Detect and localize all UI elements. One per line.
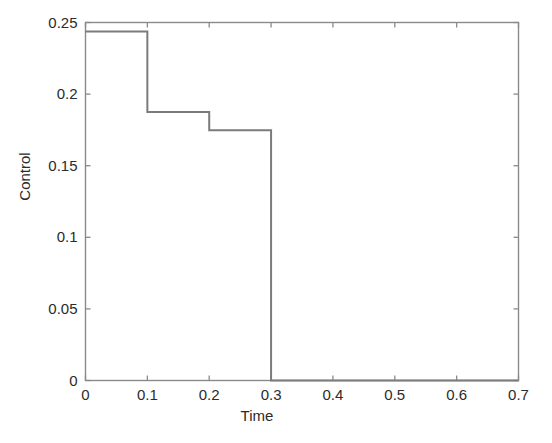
y-axis-title: Control [16, 152, 33, 200]
y-tick-label: 0.25 [48, 14, 77, 31]
x-axis-title: Time [241, 407, 274, 424]
step-plot: 00.10.20.30.40.50.60.700.050.10.150.20.2… [0, 0, 552, 443]
x-tick-label: 0.3 [261, 386, 282, 403]
x-tick-label: 0.4 [322, 386, 343, 403]
chart-figure: 00.10.20.30.40.50.60.700.050.10.150.20.2… [0, 0, 552, 443]
y-tick-label: 0.1 [57, 228, 78, 245]
y-tick-label: 0.2 [57, 85, 78, 102]
axes-frame [86, 23, 519, 381]
x-tick-label: 0.5 [384, 386, 405, 403]
x-tick-label: 0.1 [137, 386, 158, 403]
x-tick-label: 0.7 [508, 386, 529, 403]
y-tick-label: 0.15 [48, 157, 77, 174]
x-tick-label: 0.6 [446, 386, 467, 403]
data-series-line [86, 32, 519, 381]
y-tick-label: 0.05 [48, 300, 77, 317]
x-tick-label: 0.2 [199, 386, 220, 403]
x-tick-label: 0 [81, 386, 89, 403]
y-tick-label: 0 [69, 372, 77, 389]
